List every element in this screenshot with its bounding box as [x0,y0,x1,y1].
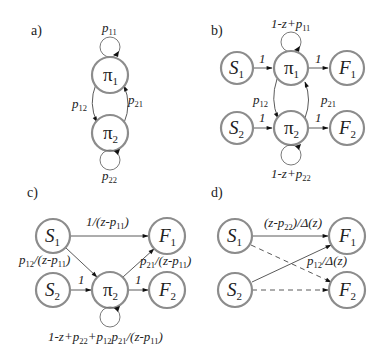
edge-label-p22: p22 [101,168,117,185]
edge-label-S1-pi2: p12/(z-p11) [18,252,70,269]
edge-label-p21: p21 [320,92,336,109]
panel-d: d) (z-p22)/Δ(z) p12/Δ(z) S1 F1 S2 F2 [211,185,365,308]
panel-a: a) p11 p12 p21 π1 π2 p22 [31,20,143,185]
edge-label-1: 1 [259,51,266,66]
edge-label-loop-pi1: 1-z+p11 [271,16,310,33]
panel-label-c: c) [27,185,38,201]
panel-label-a: a) [31,23,42,39]
panel-b: b) 1-z+p11 1 1 p12 p21 1 1 S1 π1 F1 S2 π… [211,16,364,183]
edge-label-loop-pi2: 1-z+p22 [271,166,311,183]
edge-pi2-to-pi1 [305,82,309,118]
panel-label-d: d) [211,185,223,201]
edge-pi1-to-pi2 [92,84,97,122]
edge-label-1: 1 [78,272,85,287]
edge-label-1: 1 [315,51,322,66]
edge-label-p12: p12 [252,92,268,109]
edge-label-p21: p21 [127,92,143,109]
edge-label-1: 1 [315,110,322,125]
edge-label-S1-F1: 1/(z-p11) [86,214,129,231]
edge-label-1: 1 [259,110,266,125]
panel-label-b: b) [211,23,223,39]
edge-label-S2-F1: p12/Δ(z) [306,253,347,270]
edge-pi1-to-pi2 [274,79,278,118]
edge-label-loop-pi2: 1-z+p22+p12p21/(z-p11) [48,329,163,346]
edge-label-1: 1 [135,272,142,287]
markov-chain-figure: a) p11 p12 p21 π1 π2 p22 b) 1-z+p11 1 1 [0,0,388,361]
edge-label-p11: p11 [101,20,117,37]
edge-label-S1-F1: (z-p22)/Δ(z) [264,215,322,232]
edge-label-p12: p12 [71,96,87,113]
panel-c: c) 1/(z-p11) p12/(z-p11) p21/(z-p11) 1 1… [18,185,191,346]
